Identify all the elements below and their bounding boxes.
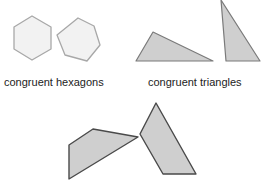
hexagons-caption: congruent hexagons: [4, 76, 104, 88]
triangle-1: [136, 32, 213, 61]
hexagon-1: [14, 16, 51, 60]
triangles-caption: congruent triangles: [148, 76, 242, 88]
triangle-2: [221, 0, 260, 61]
quadrilateral-2: [140, 103, 196, 174]
quadrilateral-1: [69, 129, 138, 179]
congruence-diagram: [0, 0, 266, 190]
hexagon-2: [57, 18, 100, 61]
